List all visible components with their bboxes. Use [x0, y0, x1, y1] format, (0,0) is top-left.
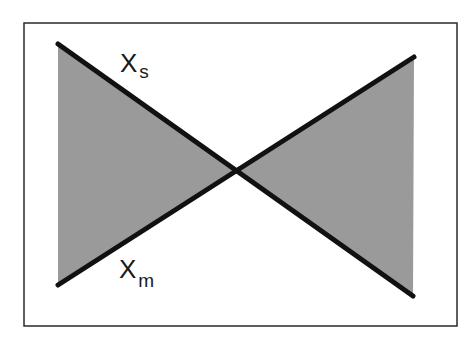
xs-label-subscript: s: [139, 61, 149, 82]
xs-label-main: X: [120, 48, 137, 78]
xm-label-main: X: [119, 254, 136, 284]
bowtie-diagram: Xs Xm: [0, 0, 467, 339]
xm-label-subscript: m: [138, 270, 154, 291]
